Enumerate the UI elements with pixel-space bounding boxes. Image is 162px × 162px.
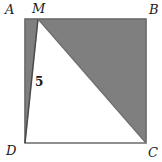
figure-canvas <box>0 0 162 162</box>
vertex-label-b: B <box>149 3 159 16</box>
vertex-label-m: M <box>32 2 45 15</box>
vertex-label-d: D <box>6 144 16 157</box>
geometry-figure: A M B C D 5 <box>0 0 162 162</box>
segment-length-label-md: 5 <box>35 76 43 88</box>
vertex-label-c: C <box>148 146 158 159</box>
vertex-label-a: A <box>5 3 14 16</box>
